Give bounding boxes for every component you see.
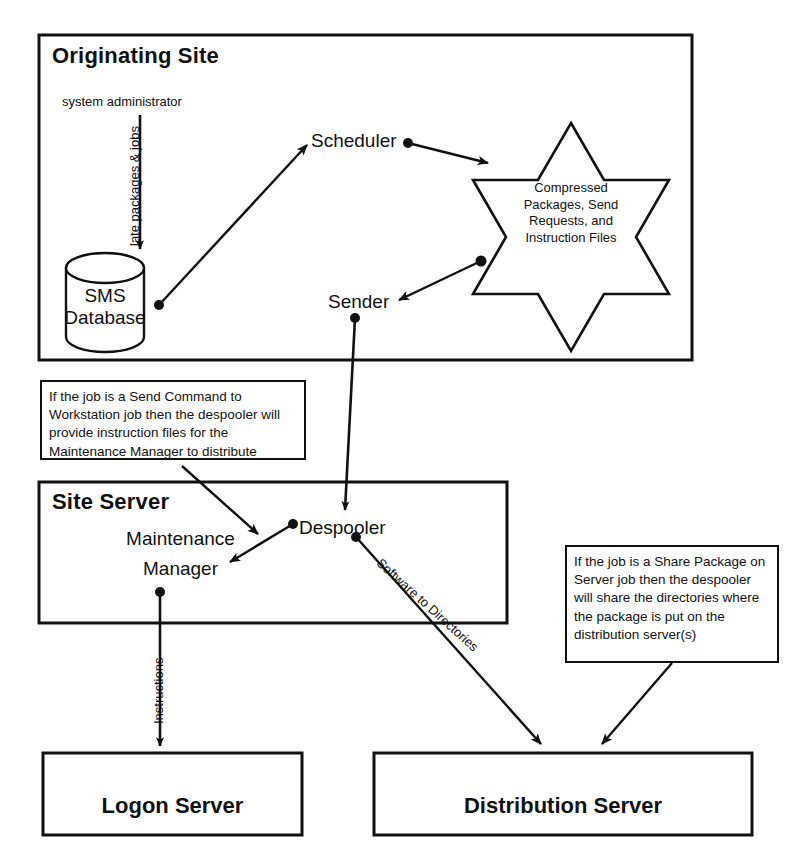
- store-line-1: Compressed: [491, 180, 651, 197]
- note-share-package: If the job is a Share Package on Server …: [565, 545, 779, 663]
- distribution-server-group: Distribution Server: [374, 756, 752, 855]
- note-send-command: If the job is a Send Command to Workstat…: [40, 380, 306, 460]
- distribution-server-title: Distribution Server: [374, 793, 752, 818]
- dot-scheduler-out: [403, 138, 413, 148]
- store-line-2: Packages, Send: [491, 197, 651, 214]
- maintenance-manager-label-line2: Manager: [108, 558, 253, 580]
- despooler-label: Despooler: [299, 517, 386, 539]
- dot-store-out: [476, 256, 487, 267]
- store-line-3: Requests, and: [491, 213, 651, 230]
- sms-database-label-line2: Database: [53, 307, 157, 329]
- sender-label: Sender: [328, 291, 389, 313]
- edge-label-instructions: Instructions: [152, 658, 167, 724]
- edge-database-to-scheduler: [159, 145, 307, 305]
- maintenance-manager-label-line1: Maintenance: [108, 528, 253, 550]
- compressed-packages-store-label: Compressed Packages, Send Requests, and …: [491, 180, 651, 247]
- dot-sender-out: [350, 313, 360, 323]
- store-line-4: Instruction Files: [491, 230, 651, 247]
- edge-label-create-packages-jobs: late packages & jobs: [128, 126, 143, 246]
- dot-despooler-left: [288, 519, 298, 529]
- edge-label-software-to-directories: Software to Directories: [373, 556, 481, 655]
- scheduler-label: Scheduler: [311, 130, 397, 152]
- leader-note-send-command: [182, 466, 258, 534]
- leader-note-share-package: [602, 663, 672, 744]
- edge-scheduler-to-store: [408, 143, 488, 163]
- sms-database-label-line1: SMS: [60, 285, 150, 307]
- diagram-canvas: Originating Site Site Server Logon Serve…: [0, 0, 807, 862]
- originating-site-title: Originating Site: [52, 43, 219, 68]
- logon-server-group: Logon Server: [43, 756, 302, 855]
- logon-server-title: Logon Server: [43, 793, 302, 818]
- site-server-title: Site Server: [52, 489, 169, 514]
- system-administrator-label: system administrator: [62, 95, 182, 110]
- dot-maintenance-manager-out: [155, 587, 165, 597]
- edge-store-to-sender: [399, 261, 481, 300]
